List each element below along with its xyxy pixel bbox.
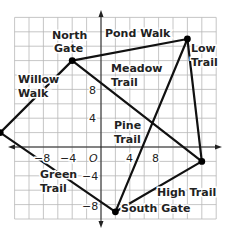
- label-low-trail-2: Trail: [191, 56, 218, 69]
- x-tick-neg8: −8: [34, 152, 50, 165]
- trail-map-diagram: −8 −4 O 4 8 8 4 −4 −8 North Gate Pond Wa…: [0, 0, 226, 230]
- y-axis-arrow-up: [99, 10, 104, 17]
- vertex-south-gate: [112, 208, 119, 215]
- y-tick-neg8: −8: [82, 200, 98, 213]
- x-axis-arrow-left: [8, 145, 15, 150]
- label-willow-walk-1: Willow: [18, 73, 59, 86]
- vertex-east-corner: [198, 158, 205, 165]
- x-tick-8: 8: [152, 152, 159, 165]
- label-meadow-trail-1: Meadow: [111, 62, 162, 75]
- x-axis-arrow-right: [215, 145, 222, 150]
- label-low-trail-1: Low: [191, 42, 216, 55]
- y-tick-8: 8: [89, 84, 96, 97]
- label-north-gate-2: Gate: [54, 42, 83, 55]
- label-pine-trail-2: Trail: [114, 133, 141, 146]
- y-tick-4: 4: [89, 112, 96, 125]
- x-tick-4: 4: [126, 152, 133, 165]
- label-north-gate-1: North: [52, 29, 87, 42]
- label-pine-trail-1: Pine: [114, 119, 141, 132]
- vertex-low-corner: [184, 36, 191, 43]
- label-south-gate: South Gate: [121, 202, 190, 215]
- y-tick-neg4: −4: [82, 170, 98, 183]
- label-pond-walk: Pond Walk: [105, 27, 171, 40]
- label-willow-walk-2: Walk: [18, 87, 49, 100]
- label-green-trail-1: Green: [40, 168, 77, 181]
- x-tick-neg4: −4: [60, 152, 76, 165]
- origin-label: O: [89, 152, 98, 165]
- vertex-north-gate: [69, 57, 76, 64]
- y-axis-arrow-down: [99, 221, 104, 228]
- label-meadow-trail-2: Trail: [111, 76, 138, 89]
- label-high-trail: High Trail: [157, 186, 216, 199]
- label-green-trail-2: Trail: [40, 182, 67, 195]
